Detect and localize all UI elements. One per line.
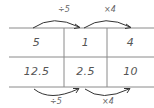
- top-arrow-2-icon: [84, 21, 130, 28]
- cell-r1-c2: 1: [64, 36, 107, 50]
- bottom-arrow-1-icon: [34, 89, 78, 96]
- ratio-table-diagram: ÷5 ×4 ÷5 ×4 5 1 4 12.5 2.5 10: [0, 0, 154, 108]
- cell-r1-c3: 4: [107, 36, 154, 50]
- top-arrow-2-label: ×4: [98, 5, 122, 14]
- bottom-arrow-2-icon: [85, 89, 129, 96]
- bottom-arrow-2-label: ×4: [96, 97, 120, 106]
- top-arrow-1-icon: [33, 21, 79, 28]
- bottom-arrow-1-label: ÷5: [44, 97, 68, 106]
- cell-r2-c2: 2.5: [64, 65, 107, 79]
- cell-r2-c3: 10: [107, 65, 154, 79]
- top-arrow-1-label: ÷5: [52, 5, 76, 14]
- cell-r2-c1: 12.5: [9, 65, 64, 79]
- cell-r1-c1: 5: [9, 36, 64, 50]
- table-grid-and-arrows: [0, 0, 154, 108]
